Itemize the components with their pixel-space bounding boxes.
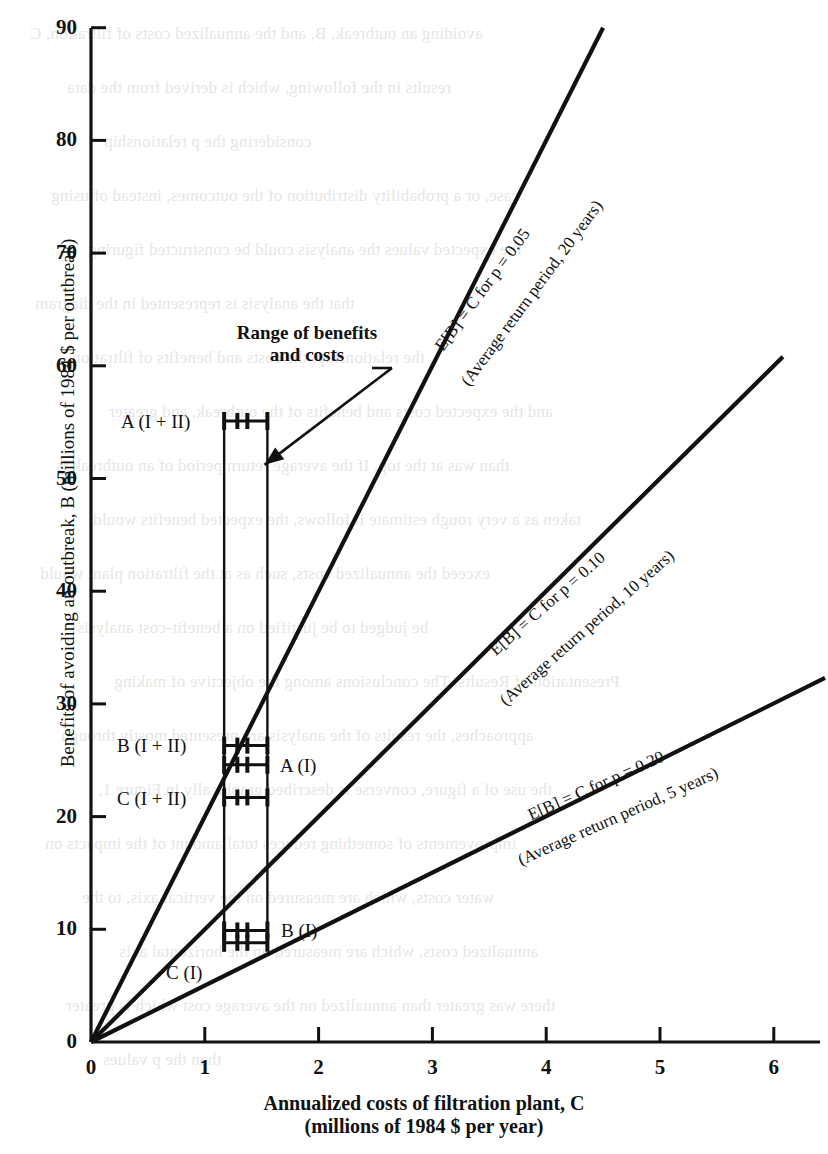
x-axis-title-text: Annualized costs of filtration plant, C — [244, 1092, 604, 1115]
x-tick-label: 5 — [629, 1055, 691, 1080]
point-label-a-i: A (I) — [280, 755, 316, 777]
x-tick-label: 1 — [174, 1055, 236, 1080]
point-label-b-i: B (I) — [281, 920, 317, 942]
range-callout-label: Range of benefits and costs — [202, 322, 412, 366]
x-axis-title: Annualized costs of filtration plant, C … — [244, 1092, 604, 1138]
point-label-c-i-ii: C (I + II) — [117, 788, 186, 810]
point-label-c-i: C (I) — [166, 962, 202, 984]
benefit-cost-figure: avoiding an outbreak, B, and the annuali… — [0, 0, 828, 1154]
x-tick-label: 0 — [60, 1055, 122, 1080]
y-tick-label: 0 — [15, 1029, 77, 1054]
x-tick-label: 2 — [288, 1055, 350, 1080]
x-axis-title-subtext: (millions of 1984 $ per year) — [244, 1115, 604, 1138]
x-tick-label: 3 — [401, 1055, 463, 1080]
y-axis-title-text: Benefits of avoiding an outbreak, B (mil… — [57, 239, 78, 768]
y-tick-label: 80 — [15, 127, 77, 152]
y-axis-title: Benefits of avoiding an outbreak, B (mil… — [57, 183, 79, 823]
x-tick-label: 6 — [743, 1055, 805, 1080]
chart-plot-area — [0, 0, 828, 1154]
y-axis-ticks — [91, 28, 106, 930]
point-label-a-i-ii: A (I + II) — [121, 411, 190, 433]
x-axis-ticks — [205, 1027, 774, 1042]
benefit-cost-lines — [91, 28, 825, 1042]
range-callout-line2: and costs — [202, 344, 412, 366]
range-of-benefits-and-costs-box — [224, 421, 267, 943]
range-callout-line1: Range of benefits — [202, 322, 412, 344]
range-callout-arrow-icon — [265, 368, 392, 465]
x-tick-label: 4 — [515, 1055, 577, 1080]
point-label-b-i-ii: B (I + II) — [117, 735, 186, 757]
y-tick-label: 10 — [15, 916, 77, 941]
y-tick-label: 90 — [15, 15, 77, 40]
